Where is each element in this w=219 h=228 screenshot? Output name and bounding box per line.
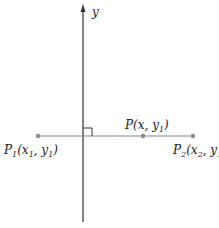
right-angle-marker <box>83 128 92 136</box>
label-p: P(x, y1) <box>124 118 169 134</box>
label-p1: P1(x1, y1) <box>3 143 58 159</box>
point-p2 <box>191 134 195 138</box>
y-axis-arrow-icon <box>81 4 86 12</box>
point-p1 <box>36 134 40 138</box>
y-axis-label: y <box>91 5 99 19</box>
point-p <box>141 134 145 138</box>
coordinate-diagram: y P1(x1, y1) P(x, y1) P2(x2, y1) <box>0 0 219 228</box>
label-p2: P2(x2, y1) <box>172 143 219 159</box>
